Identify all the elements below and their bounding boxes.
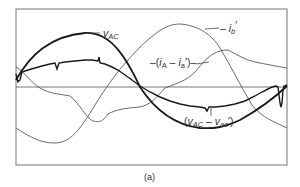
label-vac-diff: (vAC – vac′) <box>184 115 234 129</box>
series-vac <box>16 33 287 128</box>
chart-figure: vAC – ib′ –(iA – ia′)– (vAC – vac′) (a) <box>0 0 300 187</box>
figure-caption: (a) <box>144 172 155 182</box>
label-neg-ib: – ib′ <box>220 19 237 36</box>
label-neg-ia-diff: –(iA – ia′)– <box>150 56 196 70</box>
series-neg-ib-prime <box>16 24 287 143</box>
leader-ib <box>205 28 219 29</box>
label-vac: vAC <box>103 27 119 41</box>
